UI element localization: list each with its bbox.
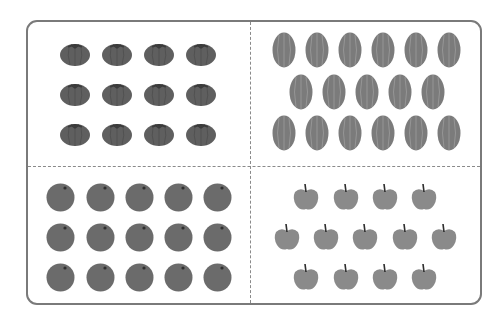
tomato-icon (185, 79, 217, 107)
tomato-icon (143, 39, 175, 67)
orange-icon (46, 223, 75, 252)
watermelon-icon (437, 32, 461, 68)
orange-icon (46, 263, 75, 292)
watermelon-icon (272, 32, 296, 68)
tomato-icon (101, 79, 133, 107)
watermelon-icon (338, 32, 362, 68)
orange-icon (203, 223, 232, 252)
tomato-icon (59, 79, 91, 107)
apple-icon (430, 223, 458, 251)
watermelon-icon (289, 74, 313, 110)
orange-icon (164, 263, 193, 292)
orange-icon (86, 263, 115, 292)
tomato-icon (59, 119, 91, 147)
watermelon-icon (421, 74, 445, 110)
horizontal-divider (28, 166, 480, 167)
apple-icon (371, 183, 399, 211)
tomato-icon (185, 39, 217, 67)
apple-icon (410, 263, 438, 291)
watermelon-icon (305, 115, 329, 151)
watermelon-icon (404, 115, 428, 151)
orange-icon (125, 223, 154, 252)
apple-icon (332, 183, 360, 211)
orange-icon (86, 223, 115, 252)
watermelon-icon (404, 32, 428, 68)
apple-icon (332, 263, 360, 291)
tomato-icon (143, 79, 175, 107)
apple-icon (312, 223, 340, 251)
watermelon-icon (338, 115, 362, 151)
orange-icon (125, 183, 154, 212)
apple-icon (351, 223, 379, 251)
watermelon-icon (272, 115, 296, 151)
tomato-icon (101, 39, 133, 67)
tomato-icon (185, 119, 217, 147)
orange-icon (86, 183, 115, 212)
tomato-icon (143, 119, 175, 147)
orange-icon (164, 223, 193, 252)
tomato-icon (101, 119, 133, 147)
watermelon-icon (371, 115, 395, 151)
tomato-icon (59, 39, 91, 67)
apple-icon (273, 223, 301, 251)
watermelon-icon (355, 74, 379, 110)
watermelon-icon (322, 74, 346, 110)
orange-icon (125, 263, 154, 292)
orange-icon (203, 183, 232, 212)
vertical-divider (250, 22, 251, 303)
apple-icon (371, 263, 399, 291)
apple-icon (410, 183, 438, 211)
apple-icon (292, 263, 320, 291)
orange-icon (46, 183, 75, 212)
apple-icon (391, 223, 419, 251)
watermelon-icon (371, 32, 395, 68)
watermelon-icon (437, 115, 461, 151)
orange-icon (164, 183, 193, 212)
watermelon-icon (388, 74, 412, 110)
watermelon-icon (305, 32, 329, 68)
orange-icon (203, 263, 232, 292)
apple-icon (292, 183, 320, 211)
